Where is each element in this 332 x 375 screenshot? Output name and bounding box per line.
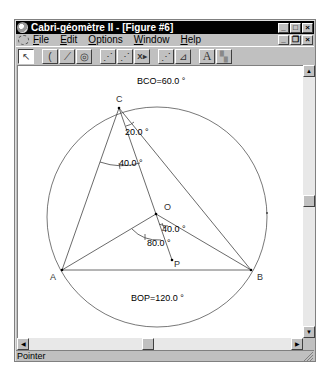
tool-check-property[interactable]: ⋰	[158, 49, 174, 64]
title-bar[interactable]: Cabri-géomètre II - [Figure #6] _ □ ×	[16, 21, 314, 34]
maximize-button[interactable]: □	[290, 23, 301, 33]
status-bar: Pointer	[16, 350, 314, 362]
tool-measure[interactable]: ⊿	[175, 49, 191, 64]
tool-macro[interactable]: X▸	[134, 49, 150, 64]
construct-icon: ⋰	[103, 51, 113, 62]
close-button[interactable]: ×	[302, 23, 313, 33]
left-arrow-icon: ◀	[21, 341, 26, 347]
label-c[interactable]: C	[116, 94, 123, 104]
right-arrow-icon: ▶	[295, 341, 300, 347]
menu-file[interactable]: File	[33, 34, 49, 45]
window-title: Cabri-géomètre II - [Figure #6]	[31, 21, 278, 34]
tool-display[interactable]: A	[199, 49, 215, 64]
scrollbar-corner	[303, 338, 315, 350]
point-c[interactable]	[118, 107, 121, 110]
measure-40-o[interactable]: 40.0 °	[162, 224, 186, 234]
tool-construct[interactable]: ⋰	[100, 49, 116, 64]
circle-icon: ◎	[80, 51, 89, 62]
tool-points[interactable]: (	[42, 49, 58, 64]
horizontal-scrollbar[interactable]: ◀ ▶	[17, 338, 303, 350]
tool-lines[interactable]: ⟋	[59, 49, 75, 64]
doc-minimize-button[interactable]: _	[278, 35, 289, 45]
tool-curves[interactable]: ◎	[76, 49, 92, 64]
vertical-scroll-thumb[interactable]	[303, 195, 315, 207]
label-o[interactable]: O	[164, 202, 171, 212]
drawing-canvas[interactable]: C A B O P BCO=60.0 ° 20.0 ° 40.0 ° 40.0 …	[17, 65, 303, 338]
measure-icon: ⊿	[179, 51, 187, 62]
segment-oa[interactable]	[62, 214, 156, 270]
scroll-down-button[interactable]: ▼	[303, 326, 315, 338]
label-b[interactable]: B	[257, 272, 263, 282]
line-icon: ⟋	[64, 51, 71, 63]
geometry-figure: C A B O P BCO=60.0 ° 20.0 ° 40.0 ° 40.0 …	[18, 66, 303, 338]
tool-pointer[interactable]: ↖	[18, 49, 34, 64]
text-a-icon: A	[203, 49, 212, 64]
measure-bco[interactable]: BCO=60.0 °	[137, 76, 186, 86]
toolbar: ↖ ( ⟋ ◎ ⋰ ⋰ X▸ ⋰ ⊿ A ▚	[16, 46, 314, 66]
scroll-right-button[interactable]: ▶	[291, 338, 303, 350]
vertical-scrollbar[interactable]: ▲ ▼	[303, 65, 315, 338]
segment-ca[interactable]	[62, 108, 119, 270]
up-arrow-icon: ▲	[306, 68, 312, 74]
measure-40-c[interactable]: 40.0 °	[119, 158, 143, 168]
pointer-arrow-icon: ↖	[22, 51, 30, 62]
resize-grip-icon[interactable]	[304, 352, 313, 361]
scroll-up-button[interactable]: ▲	[303, 65, 315, 77]
tool-draw[interactable]: ▚	[216, 49, 232, 64]
down-arrow-icon: ▼	[306, 329, 312, 335]
menu-window[interactable]: Window	[134, 34, 170, 45]
status-text: Pointer	[17, 351, 46, 361]
doc-restore-button[interactable]: ❐	[290, 35, 301, 45]
check-property-icon: ⋰	[161, 51, 171, 62]
point-icon: (	[48, 51, 51, 62]
measure-80[interactable]: 80.0 °	[147, 238, 171, 248]
tool-transform[interactable]: ⋰	[117, 49, 133, 64]
point-a[interactable]	[61, 269, 64, 272]
doc-close-button[interactable]: ×	[302, 35, 313, 45]
macro-icon: X▸	[137, 52, 146, 61]
cabri-app-icon[interactable]	[17, 22, 28, 33]
menu-options[interactable]: Options	[88, 34, 122, 45]
menu-bar: File Edit Options Window Help _ ❐ ×	[16, 34, 314, 45]
label-p[interactable]: P	[174, 259, 180, 269]
transform-icon: ⋰	[120, 51, 130, 62]
horizontal-scroll-thumb[interactable]	[142, 338, 154, 350]
draw-icon: ▚	[220, 51, 228, 62]
minimize-button[interactable]: _	[278, 23, 289, 33]
point-b[interactable]	[250, 269, 253, 272]
measure-20[interactable]: 20.0 °	[125, 127, 149, 137]
menu-help[interactable]: Help	[180, 34, 201, 45]
point-p[interactable]	[171, 259, 174, 262]
scroll-left-button[interactable]: ◀	[17, 338, 29, 350]
app-window: Cabri-géomètre II - [Figure #6] _ □ × Fi…	[14, 19, 316, 362]
document-icon[interactable]	[18, 35, 29, 45]
measure-bop[interactable]: BOP=120.0 °	[131, 293, 184, 303]
point-o[interactable]	[155, 213, 158, 216]
menu-edit[interactable]: Edit	[60, 34, 77, 45]
label-a[interactable]: A	[50, 272, 56, 282]
